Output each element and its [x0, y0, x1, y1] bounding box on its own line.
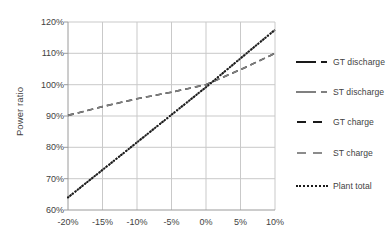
chart-legend: GT discharge ST discharge GT charge ST c…	[296, 45, 391, 205]
legend-key-st-discharge	[296, 86, 330, 98]
legend-label: GT charge	[333, 117, 374, 127]
legend-item-st-discharge[interactable]: ST discharge	[296, 85, 384, 99]
legend-key-gt-charge	[296, 116, 330, 128]
legend-label: Plant total	[333, 181, 372, 191]
legend-item-gt-discharge[interactable]: GT discharge	[296, 55, 385, 69]
chart-figure: Power ratio 120% 110% 100% 90% 80% 70% 6…	[0, 0, 391, 241]
legend-item-st-charge[interactable]: ST charge	[296, 146, 373, 160]
legend-key-st-charge	[296, 147, 330, 159]
legend-item-gt-charge[interactable]: GT charge	[296, 115, 374, 129]
legend-key-plant-total	[296, 180, 330, 192]
legend-label: ST charge	[333, 148, 373, 158]
legend-item-plant-total[interactable]: Plant total	[296, 179, 372, 193]
legend-label: ST discharge	[333, 87, 384, 97]
legend-key-gt-discharge	[296, 56, 330, 68]
legend-label: GT discharge	[333, 57, 385, 67]
x-tick-label: 10%	[253, 217, 297, 227]
